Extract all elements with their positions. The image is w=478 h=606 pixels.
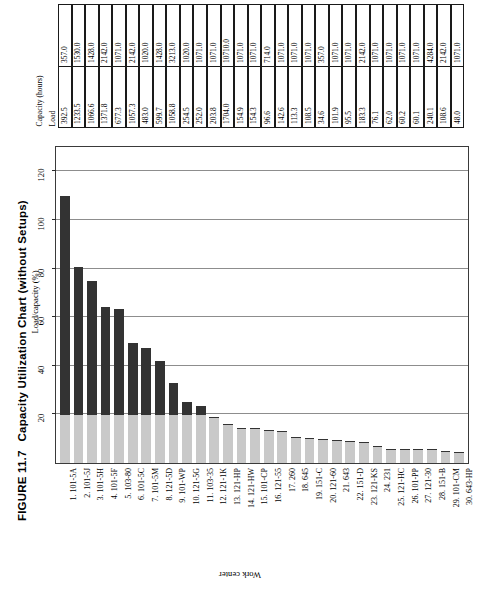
table-column: 1071.0677.3 xyxy=(112,2,126,128)
table-column: 1071.0252.0 xyxy=(193,2,207,128)
bar[interactable] xyxy=(373,446,383,463)
bar-segment-base xyxy=(454,452,464,463)
bar[interactable] xyxy=(332,440,342,463)
table-cell-load: 60.1 xyxy=(410,66,424,128)
bar[interactable] xyxy=(291,437,301,463)
table-column: 1071.060.1 xyxy=(410,2,424,128)
bar-slot xyxy=(262,147,276,463)
bar[interactable] xyxy=(359,442,369,463)
bar[interactable] xyxy=(128,343,138,463)
table-cell-capacity-value: 1071.0 xyxy=(373,43,381,63)
bar[interactable] xyxy=(400,449,410,463)
x-axis-label-slot: 5. 103-80 xyxy=(112,466,126,562)
table-column: 10710.01704.0 xyxy=(221,2,235,128)
bar[interactable] xyxy=(386,449,396,463)
table-cell-load: 1058.8 xyxy=(166,66,180,128)
table-cell-load-value: 1058.8 xyxy=(169,104,177,124)
table-cell-capacity-value: 714.0 xyxy=(264,46,272,63)
bar[interactable] xyxy=(209,417,219,463)
table-cell-capacity: 4284.0 xyxy=(424,4,438,66)
table-cell-capacity-value: 1071.0 xyxy=(196,43,204,63)
table-cell-load-value: 1066.6 xyxy=(88,104,96,124)
table-cell-load: 34.6 xyxy=(315,66,329,128)
bar-segment-base xyxy=(74,414,84,463)
bar[interactable] xyxy=(196,406,206,463)
bar-segment-base xyxy=(277,431,287,463)
table-cell-load-value: 60.2 xyxy=(400,111,408,124)
table-cell-load-value: 154.3 xyxy=(251,107,259,124)
bar[interactable] xyxy=(155,361,165,463)
table-column: 1071.0142.6 xyxy=(275,2,289,128)
table-cell-load: 113.3 xyxy=(288,66,302,128)
bar[interactable] xyxy=(277,431,287,463)
bar-segment-base xyxy=(441,451,451,463)
bar[interactable] xyxy=(318,439,328,463)
bar[interactable] xyxy=(345,441,355,463)
bar[interactable] xyxy=(74,267,84,463)
bar-slot xyxy=(384,147,398,463)
table-column: 1071.0203.8 xyxy=(207,2,221,128)
table-cell-load-value: 1057.3 xyxy=(129,104,137,124)
bar-segment-base xyxy=(332,440,342,463)
bar[interactable] xyxy=(264,430,274,463)
bar[interactable] xyxy=(237,428,247,463)
x-axis-label-slot: 21. 643 xyxy=(330,466,344,562)
table-cell-capacity-value: 1020.0 xyxy=(183,43,191,63)
bar[interactable] xyxy=(454,452,464,463)
bar[interactable] xyxy=(114,309,124,463)
bar[interactable] xyxy=(305,438,315,463)
bar[interactable] xyxy=(60,196,70,463)
table-cell-load: 599.7 xyxy=(153,66,167,128)
bar-segment-upper xyxy=(74,267,84,414)
table-column: 357.034.6 xyxy=(315,2,329,128)
table-cell-load: 240.1 xyxy=(424,66,438,128)
x-axis-label-slot: 25. 121-HC xyxy=(385,466,399,562)
bar[interactable] xyxy=(413,449,423,463)
bar-series xyxy=(56,147,468,463)
table-cell-load: 76.1 xyxy=(370,66,384,128)
x-axis-title: Work center xyxy=(170,566,310,580)
bar[interactable] xyxy=(223,424,233,463)
bar[interactable] xyxy=(182,402,192,463)
bar-slot xyxy=(167,147,181,463)
y-axis-tick-mark xyxy=(52,219,56,220)
bar[interactable] xyxy=(87,281,97,463)
table-column: 2142.01057.3 xyxy=(126,2,140,128)
table-cell-capacity: 1071.0 xyxy=(342,4,356,66)
bar[interactable] xyxy=(441,451,451,463)
table-cell-capacity-value: 1071.0 xyxy=(251,43,259,63)
bar[interactable] xyxy=(427,449,437,463)
bar-slot xyxy=(194,147,208,463)
bar-segment-base xyxy=(101,414,111,463)
table-cell-capacity: 2142.0 xyxy=(126,4,140,66)
table-cell-capacity: 1071.0 xyxy=(193,4,207,66)
x-axis-label-slot: 1. 101-5A xyxy=(57,466,71,562)
bar-slot xyxy=(153,147,167,463)
y-axis-tick-label: 20 xyxy=(30,407,52,421)
table-cell-capacity-value: 1071.0 xyxy=(400,43,408,63)
table-cell-load: 62.0 xyxy=(383,66,397,128)
bar[interactable] xyxy=(169,383,179,463)
table-cell-load-value: 252.0 xyxy=(196,107,204,124)
bar-slot xyxy=(398,147,412,463)
bar-segment-base xyxy=(386,449,396,463)
table-cell-load: 48.0 xyxy=(451,66,465,128)
table-column: 357.0392.5 xyxy=(58,2,72,128)
bar[interactable] xyxy=(101,307,111,463)
y-axis-tick-label-text: 80 xyxy=(34,268,48,277)
figure-title: Capacity Utilization Chart (without Setu… xyxy=(16,200,28,441)
bar[interactable] xyxy=(141,348,151,463)
bar[interactable] xyxy=(250,428,260,463)
bar-slot xyxy=(316,147,330,463)
table-cell-capacity: 1071.0 xyxy=(248,4,262,66)
table-cell-load: 677.3 xyxy=(112,66,126,128)
table-cell-capacity: 1071.0 xyxy=(112,4,126,66)
table-column: 3213.01058.8 xyxy=(166,2,180,128)
table-cell-load-value: 1233.5 xyxy=(75,104,83,124)
bar-slot xyxy=(452,147,466,463)
y-axis-tick-label-text: 120 xyxy=(34,169,48,182)
bar-slot xyxy=(357,147,371,463)
table-cell-capacity: 1071.0 xyxy=(370,4,384,66)
bar-segment-base xyxy=(87,414,97,463)
y-axis-tick-label-text: 40 xyxy=(34,365,48,374)
